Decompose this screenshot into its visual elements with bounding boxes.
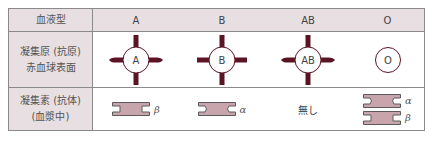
antibody-alpha-icon — [198, 102, 236, 116]
red-blood-cell-with-a-antigens-icon: A — [108, 34, 164, 86]
svg-text:AB: AB — [301, 54, 315, 65]
antigen-cell-ab: AB — [265, 32, 351, 87]
header-type-o: O — [351, 9, 424, 31]
antibody-alpha-icon — [363, 94, 401, 108]
antigen-cell-o: O — [351, 32, 424, 87]
svg-text:B: B — [219, 54, 226, 65]
header-type-ab: AB — [265, 9, 351, 31]
no-antibody-text: 無し — [298, 102, 318, 117]
antigen-cell-b: B — [179, 32, 265, 87]
beta-label: β — [154, 104, 160, 115]
blood-type-table: 血液型 A B AB O 凝集原 (抗原) 赤血球表面 — [8, 8, 425, 131]
red-blood-cell-with-ab-antigens-icon: AB — [280, 34, 336, 86]
antigen-row: 凝集原 (抗原) 赤血球表面 A — [9, 32, 424, 88]
header-type-b: B — [179, 9, 265, 31]
alpha-label: α — [405, 95, 412, 106]
svg-text:O: O — [384, 54, 392, 65]
blood-type-heading: 血液型 — [36, 12, 66, 28]
antibody-beta-icon — [112, 102, 150, 116]
antibody-cell-a: β — [93, 88, 179, 130]
antigen-cell-a: A — [93, 32, 179, 87]
antibody-cell-o: α β — [351, 88, 424, 130]
beta-label: β — [405, 112, 411, 123]
antibody-row: 凝集素 (抗体) (血漿中) β α 無し — [9, 88, 424, 130]
header-type-a: A — [93, 9, 179, 31]
svg-text:A: A — [133, 54, 140, 65]
antibody-label-line2: (血漿中) — [32, 109, 70, 125]
type-b-label: B — [219, 15, 226, 26]
type-a-label: A — [133, 15, 140, 26]
antibody-cell-ab: 無し — [265, 88, 351, 130]
red-blood-cell-no-antigen-icon: O — [373, 45, 403, 75]
antigen-row-label: 凝集原 (抗原) 赤血球表面 — [9, 32, 93, 87]
antibody-label-line1: 凝集素 (抗体) — [20, 93, 81, 109]
type-ab-label: AB — [301, 15, 315, 26]
antigen-label-line2: 赤血球表面 — [26, 60, 76, 76]
header-row: 血液型 A B AB O — [9, 9, 424, 32]
antibody-alpha-beta-icon: α β — [363, 94, 412, 125]
antibody-beta-icon — [363, 111, 401, 125]
antigen-label-line1: 凝集原 (抗原) — [20, 44, 81, 60]
header-label-cell: 血液型 — [9, 9, 93, 31]
red-blood-cell-with-b-antigens-icon: B — [194, 34, 250, 86]
alpha-label: α — [240, 104, 247, 115]
antibody-cell-b: α — [179, 88, 265, 130]
antibody-row-label: 凝集素 (抗体) (血漿中) — [9, 88, 93, 130]
type-o-label: O — [384, 15, 392, 26]
